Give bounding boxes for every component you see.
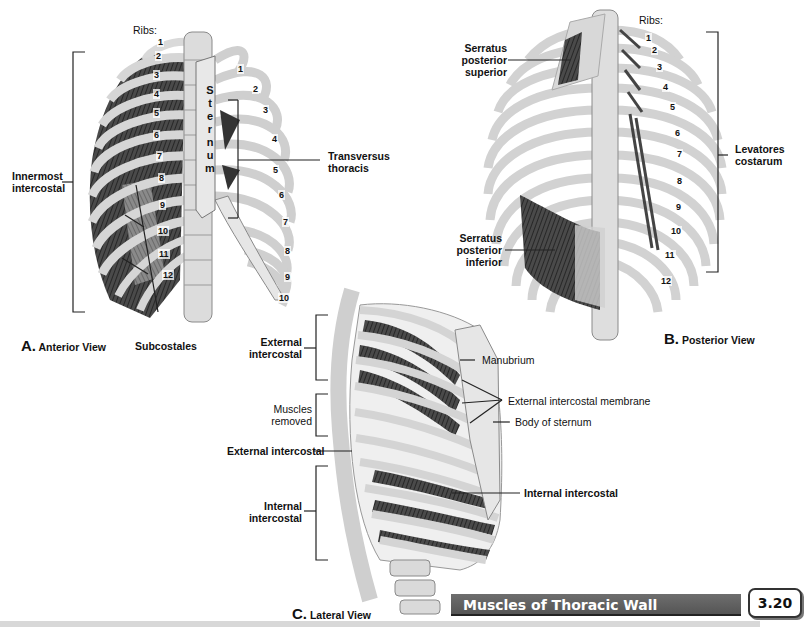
label-external-intercostal-membrane: External intercostal membrane xyxy=(508,395,650,407)
illustration xyxy=(0,0,810,633)
label-line: intercostal xyxy=(12,182,65,194)
label-external-intercostal: External intercostal xyxy=(227,445,324,457)
caption-letter: B. xyxy=(664,330,679,347)
label-line: Innermost xyxy=(12,170,65,182)
label-line: superior xyxy=(455,66,507,78)
sternum-letter: u xyxy=(204,149,216,162)
rib-number: 7 xyxy=(156,151,163,161)
label-line: Serratus xyxy=(455,42,507,54)
rib-number: 6 xyxy=(153,130,160,140)
page-title-banner: Muscles of Thoracic Wall xyxy=(451,594,741,616)
caption-text: Anterior View xyxy=(39,341,107,353)
label-body-of-sternum: Body of sternum xyxy=(515,416,591,428)
rib-number: 12 xyxy=(162,270,174,280)
label-line: Levatores xyxy=(735,143,785,155)
sternum-letter: r xyxy=(204,123,216,136)
ribs-label-posterior: Ribs: xyxy=(639,14,663,26)
label-line: External xyxy=(240,336,302,348)
rib-number: 7 xyxy=(676,149,683,159)
sternum-letter: t xyxy=(204,97,216,110)
rib-number: 3 xyxy=(262,105,269,115)
rib-number: 11 xyxy=(664,250,676,260)
label-line: removed xyxy=(260,415,312,427)
label-line: costarum xyxy=(735,155,785,167)
label-line: Serratus xyxy=(440,232,502,244)
label-subcostales: Subcostales xyxy=(135,340,197,352)
caption-letter: C. xyxy=(292,605,307,622)
label-line: inferior xyxy=(440,256,502,268)
rib-number: 10 xyxy=(157,226,169,236)
rib-number: 1 xyxy=(645,33,652,43)
rib-number: 8 xyxy=(676,176,683,186)
rib-number: 5 xyxy=(153,108,160,118)
rib-number: 9 xyxy=(675,202,682,212)
rib-number: 6 xyxy=(278,190,285,200)
caption-letter: A. xyxy=(21,337,36,354)
label-levatores-costarum: Levatores costarum xyxy=(735,143,785,167)
rib-number: 12 xyxy=(660,276,672,286)
label-line: Transversus xyxy=(328,150,390,162)
rib-number: 6 xyxy=(674,128,681,138)
label-external-intercostal-bracket: External intercostal xyxy=(240,336,302,360)
label-internal-intercostal: Internal intercostal xyxy=(524,487,618,499)
rib-number: 7 xyxy=(282,217,289,227)
rib-number: 9 xyxy=(284,272,291,282)
sternum-letter: n xyxy=(204,136,216,149)
label-transversus-thoracis: Transversus thoracis xyxy=(328,150,390,174)
section-number-badge: 3.20 xyxy=(748,588,802,618)
caption-text: Lateral View xyxy=(310,609,371,621)
footer-divider xyxy=(0,621,760,627)
rib-number: 5 xyxy=(272,165,279,175)
label-line: thoracis xyxy=(328,162,390,174)
rib-number: 4 xyxy=(271,134,278,144)
caption-anterior-view: A. Anterior View xyxy=(21,337,106,354)
ribs-label-anterior: Ribs: xyxy=(133,24,157,36)
caption-lateral-view: C. Lateral View xyxy=(292,605,371,622)
label-innermost-intercostal: Innermost intercostal xyxy=(12,170,65,194)
rib-number: 2 xyxy=(155,51,162,61)
label-line: intercostal xyxy=(240,512,302,524)
sternum-letter: m xyxy=(204,162,216,175)
rib-number: 4 xyxy=(662,82,669,92)
caption-text: Posterior View xyxy=(682,334,755,346)
rib-number: 9 xyxy=(159,200,166,210)
label-muscles-removed: Muscles removed xyxy=(260,403,312,427)
rib-number: 3 xyxy=(656,62,663,72)
rib-number: 3 xyxy=(153,70,160,80)
label-internal-intercostal-bracket: Internal intercostal xyxy=(240,500,302,524)
sternum-letter: e xyxy=(204,110,216,123)
rib-number: 1 xyxy=(237,64,244,74)
label-manubrium: Manubrium xyxy=(482,354,535,366)
label-line: Internal xyxy=(240,500,302,512)
anterior-view-figure xyxy=(90,32,292,322)
sternum-label: S t e r n u m xyxy=(204,84,216,175)
rib-number: 1 xyxy=(157,37,164,47)
label-line: posterior xyxy=(455,54,507,66)
rib-number: 10 xyxy=(278,293,290,303)
rib-number: 2 xyxy=(252,84,259,94)
rib-number: 11 xyxy=(158,249,170,259)
lateral-view-figure xyxy=(339,290,502,614)
label-line: Muscles xyxy=(260,403,312,415)
caption-posterior-view: B. Posterior View xyxy=(664,330,755,347)
label-line: intercostal xyxy=(240,348,302,360)
rib-number: 8 xyxy=(284,246,291,256)
rib-number: 5 xyxy=(669,102,676,112)
rib-number: 2 xyxy=(651,45,658,55)
rib-number: 10 xyxy=(670,226,682,236)
label-line: posterior xyxy=(440,244,502,256)
rib-number: 8 xyxy=(158,173,165,183)
sternum-letter: S xyxy=(204,84,216,97)
label-serratus-posterior-inferior: Serratus posterior inferior xyxy=(440,232,502,268)
rib-number: 4 xyxy=(153,89,160,99)
label-serratus-posterior-superior: Serratus posterior superior xyxy=(455,42,507,78)
